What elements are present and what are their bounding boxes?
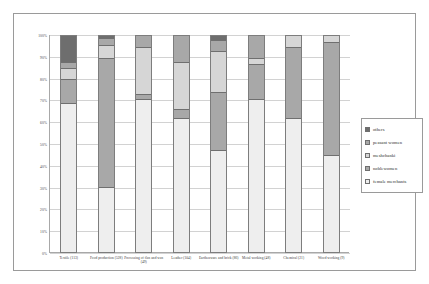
y-axis-tick-label: 30%	[40, 187, 47, 191]
bar-segment-meshchanki[interactable]	[99, 45, 114, 58]
stacked-bar[interactable]	[60, 35, 77, 253]
bar-segment-female-merchants[interactable]	[99, 187, 114, 252]
stacked-bar[interactable]	[98, 35, 115, 253]
bar-segment-peasant-women[interactable]	[174, 36, 189, 62]
bar-slot: Chemical (21)	[275, 35, 313, 253]
y-axis-tick-label: 100%	[38, 34, 47, 38]
bar-slot: Wood working (9)	[313, 35, 351, 253]
bar-segment-noblewomen[interactable]	[286, 47, 301, 118]
bar-slot: Textile (113)	[50, 35, 88, 253]
legend-item-label: peasant women	[373, 140, 402, 145]
plot-area: 100%90%80%70%60%50%40%30%20%10%0% Textil…	[49, 35, 349, 253]
legend-item-label: meshchanki	[373, 153, 395, 158]
y-axis-tick-label: 50%	[40, 143, 47, 147]
bar-segment-peasant-women[interactable]	[211, 40, 226, 51]
bar-slot: Processing of flax and wax (49)	[125, 35, 163, 253]
legend-item-meshchanki[interactable]: meshchanki	[365, 149, 419, 162]
y-axis-tick-label: 20%	[40, 208, 47, 212]
stacked-bar[interactable]	[248, 35, 265, 253]
y-axis-tick-label: 40%	[40, 165, 47, 169]
stacked-bar[interactable]	[210, 35, 227, 253]
bar-segment-female-merchants[interactable]	[286, 118, 301, 252]
bar-segment-others[interactable]	[61, 36, 76, 62]
x-axis-tick-label: Food production (528)	[86, 256, 126, 260]
legend-item-label: female merchants	[373, 179, 406, 184]
legend-swatch-icon	[365, 179, 370, 184]
legend-swatch-icon	[365, 140, 370, 145]
bar-segment-peasant-women[interactable]	[249, 36, 264, 58]
bar-segment-meshchanki[interactable]	[136, 47, 151, 95]
legend-item-female-merchants[interactable]: female merchants	[365, 175, 419, 188]
legend-item-label: others	[373, 127, 385, 132]
y-axis-tick-label: 0%	[42, 252, 47, 256]
bar-segment-female-merchants[interactable]	[136, 99, 151, 252]
legend-item-others[interactable]: others	[365, 123, 419, 136]
y-axis-tick-label: 90%	[40, 56, 47, 60]
bar-slot: Leather (104)	[163, 35, 201, 253]
legend-swatch-icon	[365, 127, 370, 132]
bar-segment-noblewomen[interactable]	[174, 109, 189, 118]
legend-item-label: noblewomen	[373, 166, 397, 171]
bar-segment-female-merchants[interactable]	[249, 99, 264, 252]
bar-slot: Food production (528)	[88, 35, 126, 253]
bar-segment-meshchanki[interactable]	[61, 68, 76, 79]
bar-segment-female-merchants[interactable]	[211, 150, 226, 252]
y-axis-tick-label: 60%	[40, 121, 47, 125]
x-axis-tick-label: Chemical (21)	[274, 256, 314, 260]
gridline: 0%	[50, 253, 350, 254]
bar-segment-female-merchants[interactable]	[61, 103, 76, 252]
bar-segment-meshchanki[interactable]	[174, 62, 189, 110]
chart-figure: 100%90%80%70%60%50%40%30%20%10%0% Textil…	[0, 0, 429, 284]
x-axis-tick-label: Textile (113)	[49, 256, 89, 260]
bar-group: Textile (113)Food production (528)Proces…	[50, 35, 350, 253]
bar-segment-female-merchants[interactable]	[174, 118, 189, 252]
stacked-bar[interactable]	[285, 35, 302, 253]
stacked-bar[interactable]	[323, 35, 340, 253]
bar-segment-noblewomen[interactable]	[61, 79, 76, 103]
bar-segment-peasant-women[interactable]	[136, 36, 151, 47]
legend-swatch-icon	[365, 153, 370, 158]
bar-slot: Metal working (48)	[238, 35, 276, 253]
bar-segment-female-merchants[interactable]	[324, 155, 339, 252]
bar-segment-noblewomen[interactable]	[324, 42, 339, 154]
x-axis-tick-label: Metal working (48)	[236, 256, 276, 260]
y-axis-tick-label: 10%	[40, 230, 47, 234]
legend-item-peasant-women[interactable]: peasant women	[365, 136, 419, 149]
bar-segment-meshchanki[interactable]	[211, 51, 226, 92]
bar-segment-noblewomen[interactable]	[211, 92, 226, 150]
stacked-bar[interactable]	[173, 35, 190, 253]
x-axis-tick-label: Processing of flax and wax (49)	[124, 256, 164, 265]
x-axis-tick-label: Leather (104)	[161, 256, 201, 260]
x-axis-tick-label: Wood working (9)	[311, 256, 351, 260]
stacked-bar[interactable]	[135, 35, 152, 253]
legend-item-noblewomen[interactable]: noblewomen	[365, 162, 419, 175]
chart-frame: 100%90%80%70%60%50%40%30%20%10%0% Textil…	[13, 13, 416, 271]
y-axis-tick-label: 70%	[40, 99, 47, 103]
legend-swatch-icon	[365, 166, 370, 171]
bar-segment-meshchanki[interactable]	[286, 36, 301, 47]
x-axis-tick-label: Earthenware and brick (86)	[199, 256, 239, 260]
bar-segment-noblewomen[interactable]	[99, 58, 114, 188]
chart-legend: otherspeasant womenmeshchankinoblewomenf…	[361, 118, 423, 193]
bar-slot: Earthenware and brick (86)	[200, 35, 238, 253]
bar-segment-noblewomen[interactable]	[249, 64, 264, 99]
y-axis-tick-label: 80%	[40, 78, 47, 82]
